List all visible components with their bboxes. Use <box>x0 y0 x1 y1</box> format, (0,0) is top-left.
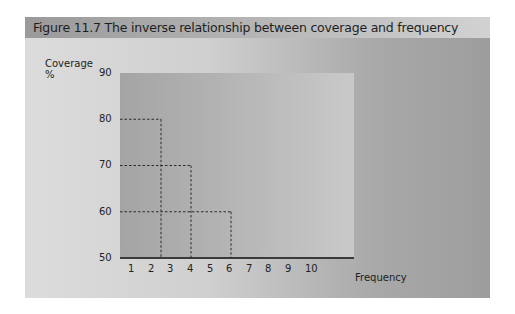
drop-lines <box>0 0 515 314</box>
